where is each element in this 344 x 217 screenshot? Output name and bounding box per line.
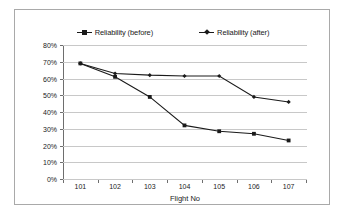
data-point-marker — [287, 100, 291, 104]
chart-frame: Reliability (before) Reliability (after)… — [14, 9, 330, 205]
data-point-marker — [182, 74, 186, 78]
data-point-marker — [183, 124, 187, 128]
plot-wrapper: 0%10%20%30%40%50%60%70%80% 1011021031041… — [15, 10, 331, 206]
data-point-marker — [252, 132, 256, 136]
series-line-reliability-after — [80, 63, 288, 102]
x-axis-title: Flight No — [63, 194, 307, 203]
data-point-marker — [148, 73, 152, 77]
data-point-marker — [148, 95, 152, 99]
data-point-marker — [217, 129, 221, 133]
data-point-marker — [287, 139, 291, 143]
data-series-layer — [15, 10, 331, 206]
